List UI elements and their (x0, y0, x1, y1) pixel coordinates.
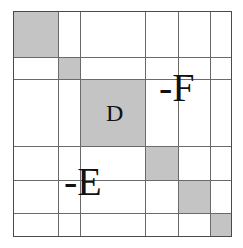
block-diagonal-grid: D -F -E (0, 0, 243, 248)
label-neg-f: -F (159, 68, 195, 108)
label-d: D (106, 101, 123, 125)
label-neg-e: -E (64, 162, 102, 202)
